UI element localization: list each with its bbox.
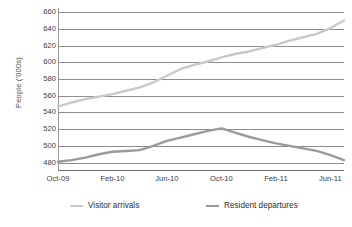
legend-label-visitor-arrivals: Visitor arrivals [88,201,139,211]
legend-swatch-visitor-arrivals [70,205,83,207]
y-axis-tick-label: 560 [28,92,56,100]
y-axis-tick-label: 500 [28,142,56,150]
series-lines [58,8,344,171]
x-axis-tick-label: Feb-10 [84,174,140,184]
legend-swatch-resident-departures [206,205,219,207]
legend-label-resident-departures: Resident departures [224,201,298,211]
series-line [58,128,344,161]
y-axis-tick-label: 640 [28,25,56,33]
y-axis-tick-label: 580 [28,75,56,83]
y-axis-tick-label: 620 [28,42,56,50]
chart-legend: Visitor arrivals Resident departures [58,200,344,216]
x-axis-tick-label: Jun-11 [302,174,352,184]
y-axis-tick-label: 520 [28,125,56,133]
x-axis-tick-label: Jun-10 [139,174,195,184]
plot-area [58,8,344,171]
y-axis-tick-label: 540 [28,108,56,116]
legend-item-visitor-arrivals: Visitor arrivals [70,200,139,212]
line-chart: People ('000s) 6606406206005805605405205… [0,0,352,227]
series-line [58,21,344,107]
y-axis-title: People ('000s) [14,27,23,139]
y-axis-tick-labels: 660640620600580560540520500480 [28,8,56,171]
x-axis-tick-label: Feb-11 [248,174,304,184]
legend-item-resident-departures: Resident departures [206,200,298,212]
x-axis-tick-label: Oct-09 [30,174,86,184]
x-axis-tick-label: Oct-10 [193,174,249,184]
y-axis-tick-label: 600 [28,58,56,66]
x-axis-tick-labels: Oct-09Feb-10Jun-10Oct-10Feb-11Jun-11 [58,174,344,186]
y-axis-tick-label: 660 [28,8,56,16]
y-axis-tick-label: 480 [28,159,56,167]
